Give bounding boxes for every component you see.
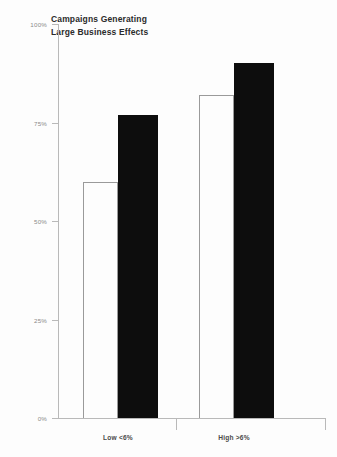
y-tick-mark bbox=[52, 418, 58, 419]
bar-filled bbox=[234, 63, 274, 418]
y-tick-label: 50% bbox=[7, 218, 47, 225]
x-category-label: High >6% bbox=[218, 434, 249, 441]
y-axis-line bbox=[58, 24, 59, 418]
x-tick-mark bbox=[325, 418, 326, 430]
y-tick-label: 75% bbox=[7, 120, 47, 127]
y-tick-label: 25% bbox=[7, 317, 47, 324]
bar-open bbox=[199, 95, 234, 418]
bar-chart: Campaigns Generating Large Business Effe… bbox=[0, 0, 337, 457]
y-tick-label: 100% bbox=[7, 21, 47, 28]
x-category-label: Low <6% bbox=[103, 434, 133, 441]
y-tick-label: 0% bbox=[7, 415, 47, 422]
x-axis-line bbox=[58, 418, 325, 419]
y-tick-mark bbox=[52, 320, 58, 321]
y-tick-mark bbox=[52, 123, 58, 124]
chart-title: Campaigns Generating Large Business Effe… bbox=[51, 13, 148, 38]
x-tick-mark bbox=[176, 418, 177, 430]
bar-open bbox=[83, 182, 118, 418]
y-tick-mark bbox=[52, 24, 58, 25]
bar-filled bbox=[118, 115, 158, 418]
y-tick-mark bbox=[52, 221, 58, 222]
